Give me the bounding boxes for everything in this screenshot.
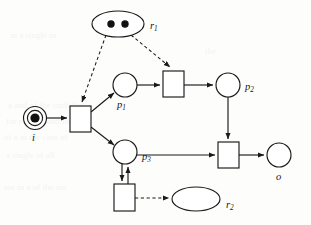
- resource-r2[interactable]: r2: [172, 187, 234, 212]
- place-p3[interactable]: p3: [113, 140, 151, 164]
- p3-circle[interactable]: [113, 140, 137, 164]
- input-place-token: [30, 113, 39, 122]
- transition-t1[interactable]: [70, 106, 91, 132]
- arc-transition1-to-p1: [91, 93, 114, 112]
- input-place-label: i: [32, 132, 35, 143]
- place-p1[interactable]: p1: [113, 73, 137, 112]
- arc-transition1-to-p3: [91, 127, 114, 145]
- output-place-circle[interactable]: [267, 143, 291, 167]
- place-i[interactable]: i: [24, 107, 47, 144]
- petri-net-canvas: r1 r2 i p1 p2: [0, 0, 311, 225]
- p1-circle[interactable]: [113, 73, 137, 97]
- arc-resource1-to-transition1: [82, 35, 106, 102]
- resource1-token-2: [121, 20, 128, 27]
- output-place-label: o: [276, 171, 281, 182]
- resource-r1[interactable]: r1: [92, 11, 158, 37]
- p2-circle[interactable]: [216, 73, 240, 97]
- transition-t4[interactable]: [114, 184, 135, 211]
- petri-net-diagram: in a single inthea and of the such thatf…: [0, 0, 311, 225]
- p3-label: p3: [141, 151, 151, 164]
- place-p2[interactable]: p2: [216, 73, 254, 97]
- resource2-ellipse[interactable]: [172, 187, 220, 211]
- transition-t2[interactable]: [163, 71, 184, 97]
- place-o[interactable]: o: [267, 143, 291, 182]
- resource1-ellipse[interactable]: [92, 11, 144, 37]
- transition-t3[interactable]: [218, 142, 239, 168]
- arc-resource1-to-transition2: [131, 35, 170, 67]
- p1-label: p1: [116, 99, 126, 112]
- resource1-label: r1: [150, 20, 158, 33]
- resource1-token-1: [107, 20, 114, 27]
- p2-label: p2: [244, 81, 254, 94]
- resource2-label: r2: [226, 199, 234, 212]
